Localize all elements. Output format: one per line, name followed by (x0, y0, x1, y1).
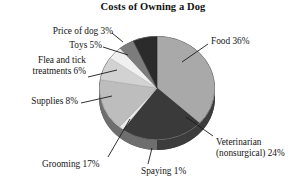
pie-chart-figure: Costs of Owning a Dog (0, 0, 306, 194)
slice-label-veterinarian-line1: Veterinarian (216, 137, 304, 148)
slice-label-spaying: Spaying 1% (141, 166, 211, 177)
slice-label-veterinarian-line2: (nonsurgical) 24% (216, 148, 306, 159)
slice-label-price-of-dog: Price of dog 3% (18, 26, 113, 37)
slice-label-grooming: Grooming 17% (42, 159, 132, 170)
slice-label-flea-line2: treatments 6% (6, 66, 86, 77)
slice-label-flea-line1: Flea and tick (6, 55, 86, 66)
slice-label-toys: Toys 5% (18, 40, 102, 51)
slice-label-supplies: Supplies 8% (2, 96, 78, 107)
slice-label-food: Food 36% (211, 36, 291, 47)
